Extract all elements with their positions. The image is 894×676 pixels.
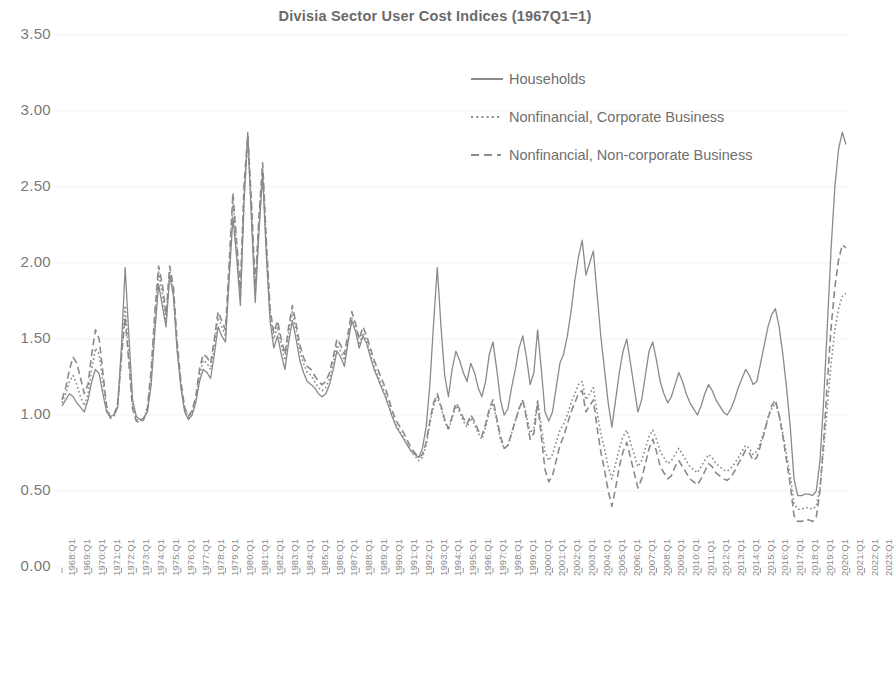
x-axis-tick-label: 1972:Q1 xyxy=(125,539,136,576)
x-axis-tick-label: 1981:Q1 xyxy=(259,539,270,576)
x-axis-tick-label: 1986:Q1 xyxy=(334,539,345,576)
legend-item-corporate: Nonfinancial, Corporate Business xyxy=(470,98,850,136)
legend-item-households: Households xyxy=(470,60,850,98)
x-axis-tick-label: 1970:Q1 xyxy=(96,539,107,576)
x-axis-tick-label: 2004:Q1 xyxy=(601,539,612,576)
x-axis-tick-label: 1998:Q1 xyxy=(512,539,523,576)
x-axis-tick-label: 2001:Q1 xyxy=(556,539,567,576)
x-axis-tick-label: 2020:Q1 xyxy=(839,539,850,576)
x-axis-tick-label: 2019:Q1 xyxy=(824,539,835,576)
legend-key-dotted-icon xyxy=(470,111,504,123)
x-axis-tick-label: 2000:Q1 xyxy=(542,539,553,576)
x-axis-tick-label: 1997:Q1 xyxy=(497,539,508,576)
legend-label-noncorporate: Nonfinancial, Non-corporate Business xyxy=(509,147,752,163)
x-axis-tick-label: 1988:Q1 xyxy=(363,539,374,576)
x-axis-tick-label: 1995:Q1 xyxy=(467,539,478,576)
x-axis-tick-label: 2009:Q1 xyxy=(675,539,686,576)
x-axis-tick-label: 2006:Q1 xyxy=(631,539,642,576)
x-axis-tick-label: 1974:Q1 xyxy=(155,539,166,576)
x-axis-tick-label: 1975:Q1 xyxy=(170,539,181,576)
x-axis-tick-label: 1993:Q1 xyxy=(438,539,449,576)
x-axis-tick-label: 1977:Q1 xyxy=(200,539,211,576)
x-axis-tick-label: 1973:Q1 xyxy=(140,539,151,576)
x-axis-tick-label: 2017:Q1 xyxy=(794,539,805,576)
legend-key-dashed-icon xyxy=(470,149,504,161)
x-axis-tick-label: 1979:Q1 xyxy=(229,539,240,576)
x-axis-tick-label: 1982:Q1 xyxy=(274,539,285,576)
legend-label-households: Households xyxy=(509,71,586,87)
x-axis-tick-label: 1991:Q1 xyxy=(408,539,419,576)
x-axis-tick-label: 1987:Q1 xyxy=(348,539,359,576)
x-axis-tick-label: 1976:Q1 xyxy=(185,539,196,576)
x-axis-tick-label: 1989:Q1 xyxy=(378,539,389,576)
x-axis-tick-label: 1994:Q1 xyxy=(452,539,463,576)
x-axis-tick-label: 2002:Q1 xyxy=(571,539,582,576)
legend-key-solid-icon xyxy=(470,73,504,85)
x-axis-tick-label: 1996:Q1 xyxy=(482,539,493,576)
x-axis-tick-label: 1978:Q1 xyxy=(215,539,226,576)
legend-label-corporate: Nonfinancial, Corporate Business xyxy=(509,109,724,125)
x-axis-tick-label: 2015:Q1 xyxy=(765,539,776,576)
x-axis-tick-label: 1983:Q1 xyxy=(289,539,300,576)
x-axis-tick-label: 1992:Q1 xyxy=(423,539,434,576)
x-axis-tick-label: 2014:Q1 xyxy=(750,539,761,576)
x-axis-tick-label: 2010:Q1 xyxy=(690,539,701,576)
x-axis-tick-label: 2016:Q1 xyxy=(779,539,790,576)
x-axis-tick-label: 2012:Q1 xyxy=(720,539,731,576)
x-axis-tick-label: 1969:Q1 xyxy=(81,539,92,576)
x-axis-tick-label: 2011:Q1 xyxy=(705,540,716,576)
x-axis-tick-label: 2018:Q1 xyxy=(809,539,820,576)
x-axis-tick-label: 1980:Q1 xyxy=(244,539,255,576)
chart-legend: Households Nonfinancial, Corporate Busin… xyxy=(470,60,850,174)
x-axis-tick-label: 1984:Q1 xyxy=(304,539,315,576)
x-axis-tick-label: 2021:Q1 xyxy=(854,539,865,576)
x-axis-tick-label: 1968:Q1 xyxy=(66,539,77,576)
x-axis-tick-label: 2003:Q1 xyxy=(586,539,597,576)
x-axis-tick-label: 2023:Q1 xyxy=(883,539,894,576)
x-axis-tick-label: 1999:Q1 xyxy=(527,539,538,576)
x-axis-tick-label: 2005:Q1 xyxy=(616,539,627,576)
x-axis-tick-label: 1971:Q1 xyxy=(111,539,122,576)
x-axis-tick-label: 2008:Q1 xyxy=(661,539,672,576)
x-axis-tick-label: 2007:Q1 xyxy=(646,539,657,576)
x-axis-tick-label: 1990:Q1 xyxy=(393,539,404,576)
x-axis-tick-label: 2013:Q1 xyxy=(735,539,746,576)
x-axis-tick-label: 1985:Q1 xyxy=(319,539,330,576)
x-axis-tick-label: 2022:Q1 xyxy=(869,539,880,576)
legend-item-noncorporate: Nonfinancial, Non-corporate Business xyxy=(470,136,850,174)
